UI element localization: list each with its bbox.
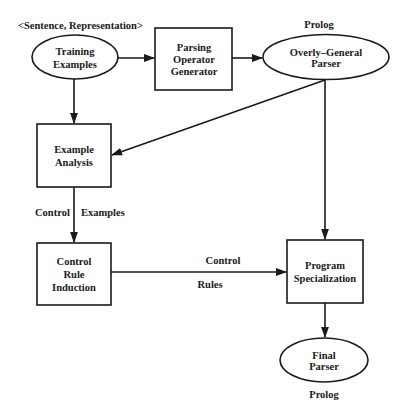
node-program-specialization: Program Specialization: [287, 240, 363, 303]
node-label-line2: Operator: [173, 54, 215, 65]
edge-label-control-rules-top: Control: [206, 255, 241, 266]
node-label-line2: Specialization: [294, 273, 357, 284]
node-label-line2: Parser: [311, 58, 341, 69]
node-label-line2: Analysis: [55, 157, 93, 168]
edge-label-control: Control: [35, 207, 70, 218]
node-label-line3: Induction: [52, 282, 96, 293]
flow-diagram: <Sentence, Representation> Training Exam…: [0, 0, 408, 420]
edge-overly-general-to-example-analysis: [112, 80, 325, 155]
node-label-line3: Generator: [171, 66, 218, 77]
node-overly-general-parser: Overly–General Parser: [263, 35, 389, 80]
input-format-label: <Sentence, Representation>: [18, 20, 143, 31]
prolog-label-top: Prolog: [304, 19, 334, 30]
node-label-line1: Training: [56, 46, 96, 57]
node-label-line1: Overly–General: [290, 47, 362, 58]
node-label-line2: Examples: [53, 59, 97, 70]
node-label-line1: Example: [54, 144, 94, 155]
prolog-label-bottom: Prolog: [309, 389, 339, 400]
node-label-line2: Rule: [64, 269, 85, 280]
node-control-rule-induction: Control Rule Induction: [37, 243, 111, 305]
node-parsing-operator-generator: Parsing Operator Generator: [155, 28, 232, 90]
edge-label-control-rules-bottom: Rules: [197, 279, 222, 290]
box-shape: [287, 240, 363, 303]
node-example-analysis: Example Analysis: [37, 124, 111, 187]
box-shape: [37, 124, 111, 187]
node-label-line1: Program: [305, 260, 345, 271]
node-label-line1: Final: [312, 350, 335, 361]
node-label-line2: Parser: [309, 361, 339, 372]
node-training-examples: Training Examples: [32, 35, 118, 79]
ellipse-shape: [32, 35, 118, 79]
node-label-line1: Control: [57, 256, 92, 267]
node-label-line1: Parsing: [177, 42, 212, 53]
edge-label-examples: Examples: [81, 207, 125, 218]
node-final-parser: Final Parser: [280, 338, 368, 382]
